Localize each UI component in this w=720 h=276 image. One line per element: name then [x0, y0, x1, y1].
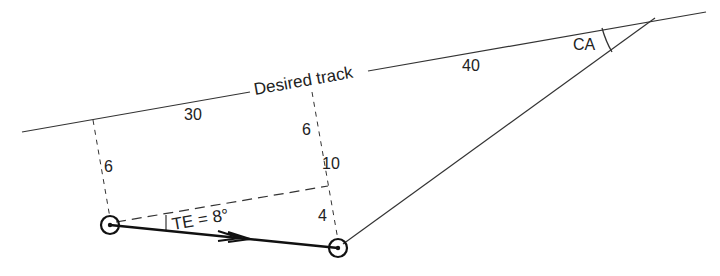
- right-fix-dot: [336, 246, 340, 250]
- actual-track-line: [110, 225, 338, 248]
- desired-track-label: Desired track: [252, 63, 354, 99]
- ca-angle-arc: [602, 28, 612, 52]
- left-fix-dot: [108, 223, 112, 227]
- desired-track-line-left: [22, 92, 250, 132]
- right-offset-mid-label: 10: [322, 155, 340, 172]
- left-offset-label: 6: [104, 158, 113, 175]
- right-offset-lower-label: 4: [318, 207, 327, 224]
- distance-40-label: 40: [462, 57, 480, 74]
- ca-label: CA: [573, 36, 596, 53]
- desired-track-line-right: [368, 12, 706, 71]
- closing-line: [343, 18, 655, 244]
- te-label: TE = 8°: [170, 205, 230, 234]
- track-error-diagram: Desired track 30 40 CA 6 6 10 4 TE = 8°: [0, 0, 720, 276]
- distance-30-label: 30: [184, 106, 202, 123]
- right-offset-upper-label: 6: [302, 121, 311, 138]
